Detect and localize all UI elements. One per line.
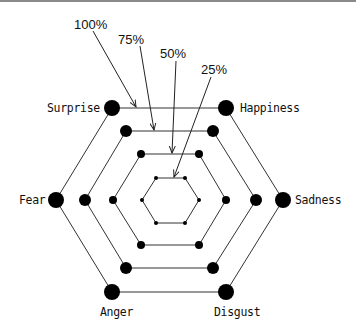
hexagon-diagram: 100% 75% 50% 25% Surprise Happiness Sadn…: [0, 0, 356, 329]
dot-surprise-100: [104, 100, 120, 116]
axis-label-happiness: Happiness: [240, 101, 300, 115]
dot-fear-75: [79, 194, 91, 206]
label-50: 50%: [160, 46, 186, 61]
dot-anger-50: [137, 241, 145, 249]
dot-sadness-25: [197, 198, 201, 202]
dot-fear-100: [48, 192, 64, 208]
dot-fear-25: [140, 198, 144, 202]
dot-happiness-50: [195, 150, 203, 158]
ring-50: [109, 150, 230, 249]
dot-sadness-75: [250, 194, 262, 206]
dot-happiness-100: [218, 100, 234, 116]
ring-25: [140, 176, 201, 225]
ring-75: [79, 125, 262, 274]
dot-disgust-25: [183, 221, 187, 225]
axis-label-fear: Fear: [19, 193, 46, 207]
dot-disgust-75: [207, 262, 219, 274]
arrow-25: [174, 77, 211, 177]
arrow-75: [140, 46, 154, 130]
dot-anger-75: [120, 262, 132, 274]
dot-sadness-100: [275, 192, 291, 208]
axis-label-disgust: Disgust: [214, 305, 260, 319]
dot-disgust-50: [195, 241, 203, 249]
axis-label-sadness: Sadness: [295, 193, 341, 207]
dot-fear-50: [109, 196, 117, 204]
dot-happiness-75: [207, 125, 219, 137]
dot-anger-100: [104, 284, 120, 300]
dot-surprise-50: [137, 150, 145, 158]
label-100: 100%: [74, 17, 108, 32]
dot-sadness-50: [222, 196, 230, 204]
dot-surprise-75: [120, 125, 132, 137]
dot-surprise-25: [154, 176, 158, 180]
arrow-50: [172, 61, 176, 153]
label-75: 75%: [118, 32, 144, 47]
dot-disgust-100: [218, 284, 234, 300]
axis-label-surprise: Surprise: [47, 101, 100, 115]
label-25: 25%: [201, 62, 227, 77]
dot-happiness-25: [183, 176, 187, 180]
axis-label-anger: Anger: [100, 305, 133, 319]
dot-anger-25: [154, 221, 158, 225]
